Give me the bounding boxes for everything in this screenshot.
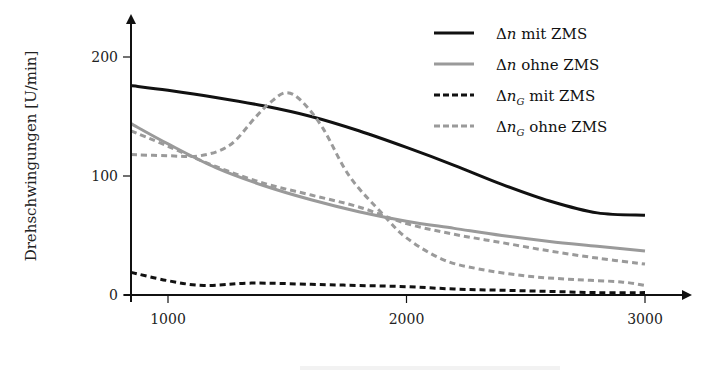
series-line-1	[131, 124, 645, 251]
y-tick-label: 100	[91, 168, 118, 184]
line-chart: 100020003000 0100200 Drehschwingungen [U…	[0, 0, 707, 370]
y-tick-label: 0	[109, 287, 118, 303]
legend-label: ΔnG mit ZMS	[496, 87, 595, 107]
legend-label: ΔnG ohne ZMS	[496, 118, 607, 138]
y-axis-title: Drehschwingungen [U/min]	[22, 51, 40, 262]
series-line-2	[131, 272, 645, 292]
legend: Δn mit ZMSΔn ohne ZMSΔnG mit ZMSΔnG ohne…	[434, 25, 607, 138]
series-layer	[131, 86, 645, 293]
x-ticks: 100020003000	[150, 295, 663, 327]
legend-label: Δn ohne ZMS	[496, 56, 599, 74]
x-tick-label: 1000	[150, 311, 186, 327]
legend-label: Δn mit ZMS	[496, 25, 587, 43]
x-axis-title-cropped	[300, 366, 560, 370]
y-ticks: 0100200	[91, 49, 131, 303]
series-line-0	[131, 86, 645, 216]
x-tick-label: 3000	[627, 311, 663, 327]
x-tick-label: 2000	[389, 311, 425, 327]
y-tick-label: 200	[91, 49, 118, 65]
